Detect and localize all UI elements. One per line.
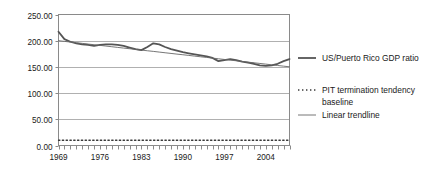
legend-label-1-line2[interactable]: baseline — [322, 97, 354, 107]
x-axis-tick-label: 1997 — [215, 153, 234, 162]
y-axis-tick-label: 50.00 — [32, 116, 53, 125]
y-axis-tick-label: 0.00 — [37, 143, 53, 152]
x-axis-tick-label: 1990 — [174, 153, 193, 162]
gdp-ratio-line-chart: 0.0050.00100.00150.00200.00250.00 196919… — [0, 0, 448, 178]
y-axis-tick-label: 200.00 — [27, 38, 52, 47]
legend-label-2[interactable]: Linear trendline — [322, 110, 380, 120]
x-axis-tick-label: 1976 — [91, 153, 110, 162]
y-axis-tick-label: 250.00 — [27, 12, 52, 21]
legend-label-1[interactable]: PIT termination tendency — [322, 85, 416, 95]
x-axis-tick-label: 1983 — [132, 153, 151, 162]
x-axis-tick-label: 1969 — [49, 153, 68, 162]
y-axis-tick-label: 100.00 — [27, 90, 52, 99]
legend-label-0[interactable]: US/Puerto Rico GDP ratio — [322, 53, 419, 63]
y-axis-tick-label: 150.00 — [27, 64, 52, 73]
chart-figure: 0.0050.00100.00150.00200.00250.00 196919… — [0, 0, 448, 178]
x-axis-tick-label: 2004 — [257, 153, 276, 162]
